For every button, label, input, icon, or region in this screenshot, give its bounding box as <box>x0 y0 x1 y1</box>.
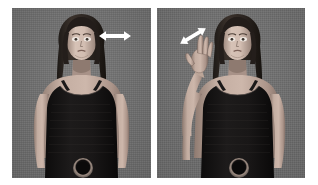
panel-right <box>157 8 305 178</box>
avatar-right <box>157 8 305 178</box>
panel-left <box>12 8 151 178</box>
avatar-left <box>12 8 151 178</box>
figure-canvas <box>0 0 318 185</box>
